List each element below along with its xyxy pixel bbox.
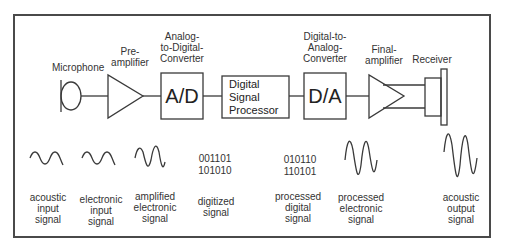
pre-amplifier-triangle-icon — [108, 75, 143, 118]
acoustic-output-label: acoustic output signal — [436, 192, 486, 225]
amplified-electronic-label: amplified electronic signal — [130, 191, 180, 224]
dsp-box-text: Digital Signal Processor — [229, 78, 289, 117]
dac-label: Digital-to- Analog- Converter — [290, 31, 360, 64]
acoustic-input-label: acoustic input signal — [25, 192, 71, 225]
final-amplifier-label: Final- amplifier — [363, 44, 405, 66]
adc-label: Analog- to-Digital- Converter — [150, 31, 214, 64]
processed-digital-label: processed digital signal — [271, 191, 325, 224]
digitized-label: digitized signal — [190, 196, 242, 218]
digitized-binary: 001101 101010 — [190, 153, 240, 177]
acoustic-output-wave-icon — [444, 134, 477, 177]
receiver-icon — [425, 69, 447, 125]
final-amplifier-triangle-icon — [369, 75, 404, 118]
receiver-label: Receiver — [410, 54, 454, 65]
adc-box-text: A/D — [161, 86, 203, 106]
pre-amplifier-label: Pre- amplifier — [108, 46, 152, 68]
processed-digital-binary: 010110 110101 — [275, 154, 325, 178]
processed-electronic-label: processed electronic signal — [334, 192, 388, 225]
acoustic-input-wave-icon — [30, 152, 63, 165]
processed-electronic-wave-icon — [345, 141, 377, 174]
amplified-electronic-wave-icon — [135, 146, 165, 167]
microphone-icon — [61, 80, 81, 112]
electronic-input-label: electronic input signal — [77, 194, 125, 227]
electronic-input-wave-icon — [82, 152, 115, 165]
microphone-label: Microphone — [52, 62, 104, 73]
signal-chain-diagram — [0, 0, 505, 251]
dac-box-text: D/A — [304, 86, 346, 106]
